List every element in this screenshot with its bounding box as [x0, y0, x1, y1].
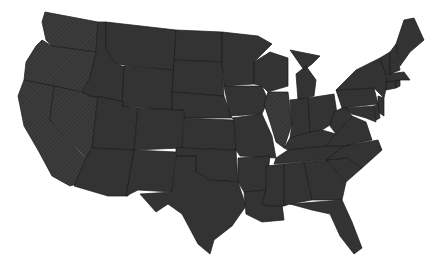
state-maine — [396, 18, 424, 66]
state-kansas — [182, 118, 236, 150]
state-colorado — [134, 108, 184, 150]
state-new-mexico — [126, 150, 176, 196]
state-iowa — [224, 86, 268, 116]
us-states-map — [0, 0, 436, 270]
state-south-dakota — [172, 60, 224, 96]
state-michigan — [290, 50, 320, 100]
state-north-dakota — [174, 30, 222, 62]
state-indiana — [290, 98, 310, 138]
state-rhode-island — [396, 80, 400, 88]
state-pennsylvania — [336, 88, 378, 108]
states-layer — [18, 12, 424, 254]
state-montana — [106, 22, 176, 70]
state-arkansas — [238, 156, 270, 192]
state-wyoming — [122, 66, 174, 110]
state-florida — [290, 200, 362, 254]
